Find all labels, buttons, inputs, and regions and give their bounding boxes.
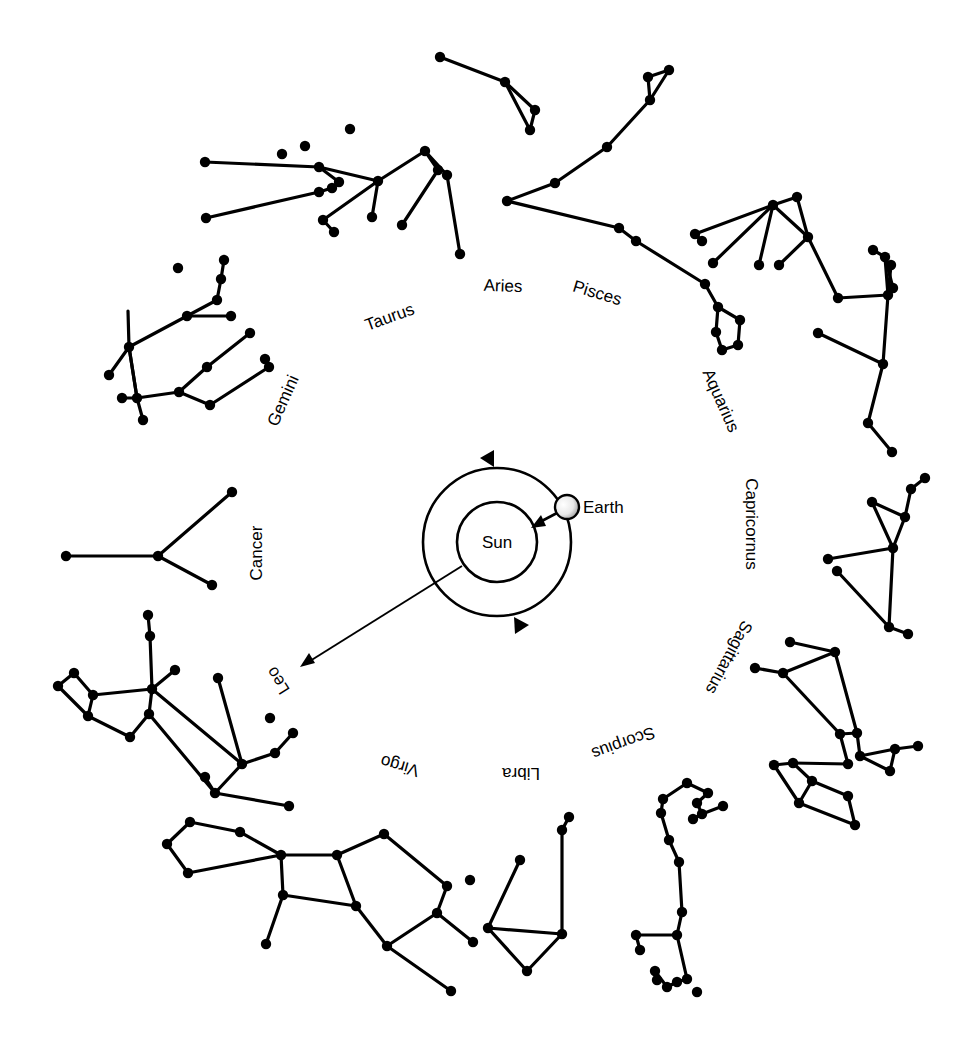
star-icon bbox=[276, 850, 286, 860]
star-icon bbox=[327, 183, 337, 193]
star-icon bbox=[750, 663, 760, 673]
star-icon bbox=[843, 759, 853, 769]
constellation-scorpius bbox=[631, 778, 728, 997]
label-virgo: Virgo bbox=[378, 751, 421, 780]
star-icon bbox=[465, 875, 475, 885]
star-icon bbox=[162, 839, 172, 849]
constellation-line bbox=[378, 151, 425, 181]
constellation-line bbox=[387, 913, 437, 946]
constellation-line bbox=[167, 844, 188, 873]
star-icon bbox=[132, 393, 142, 403]
star-icon bbox=[261, 939, 271, 949]
label-pisces: Pisces bbox=[571, 277, 624, 310]
constellation-line bbox=[283, 895, 356, 906]
constellation-line bbox=[356, 906, 387, 946]
star-icon bbox=[104, 370, 114, 380]
constellation-line bbox=[337, 855, 356, 906]
constellation-line bbox=[207, 333, 250, 367]
star-icon bbox=[143, 610, 153, 620]
star-icon bbox=[147, 684, 157, 694]
star-icon bbox=[708, 258, 718, 268]
star-icon bbox=[373, 176, 383, 186]
star-icon bbox=[351, 901, 361, 911]
star-icon bbox=[735, 315, 745, 325]
star-icon bbox=[264, 362, 274, 372]
constellation-line bbox=[838, 295, 888, 298]
star-icon bbox=[614, 223, 624, 233]
star-icon bbox=[170, 665, 180, 675]
constellation-line bbox=[759, 205, 773, 265]
constellation-line bbox=[58, 686, 88, 716]
star-icon bbox=[550, 178, 560, 188]
star-icon bbox=[185, 817, 195, 827]
star-icon bbox=[83, 711, 93, 721]
star-icon bbox=[455, 249, 465, 259]
star-icon bbox=[213, 673, 223, 683]
label-aquarius: Aquarius bbox=[699, 366, 744, 435]
star-icon bbox=[890, 744, 900, 754]
constellation-line bbox=[713, 205, 773, 263]
star-icon bbox=[717, 345, 727, 355]
constellation-line bbox=[828, 548, 893, 559]
label-capricornus: Capricornus bbox=[742, 478, 761, 570]
constellation-line bbox=[387, 946, 451, 991]
star-icon bbox=[867, 497, 877, 507]
constellation-line bbox=[507, 183, 555, 201]
star-icon bbox=[697, 809, 707, 819]
star-icon bbox=[645, 95, 655, 105]
star-icon bbox=[314, 187, 324, 197]
star-icon bbox=[278, 890, 288, 900]
constellation-line bbox=[883, 295, 888, 364]
star-icon bbox=[672, 930, 682, 940]
star-icon bbox=[202, 362, 212, 372]
zodiac-diagram: Sun Earth TaurusAriesPiscesAquariusCapri… bbox=[0, 0, 972, 1051]
star-icon bbox=[314, 162, 324, 172]
constellation-line bbox=[88, 716, 130, 737]
constellation-leo bbox=[53, 610, 298, 811]
star-icon bbox=[885, 766, 895, 776]
leo-arrowhead-icon bbox=[300, 653, 315, 667]
star-icon bbox=[174, 387, 184, 397]
constellation-line bbox=[240, 832, 281, 855]
constellation-line bbox=[129, 316, 187, 347]
constellation-line bbox=[488, 928, 527, 971]
constellation-line bbox=[783, 652, 835, 673]
constellation-line bbox=[128, 311, 129, 347]
star-icon bbox=[920, 473, 930, 483]
constellation-line bbox=[779, 237, 808, 265]
star-icon bbox=[515, 855, 525, 865]
sun-label: Sun bbox=[482, 533, 512, 552]
star-icon bbox=[557, 825, 567, 835]
star-icon bbox=[833, 293, 843, 303]
constellation-line bbox=[677, 935, 687, 979]
star-icon bbox=[270, 748, 280, 758]
star-icon bbox=[138, 415, 148, 425]
star-icon bbox=[807, 776, 817, 786]
star-icon bbox=[435, 52, 445, 62]
star-icon bbox=[868, 245, 878, 255]
constellation-line bbox=[837, 571, 889, 627]
star-icon bbox=[144, 709, 154, 719]
star-icon bbox=[210, 788, 220, 798]
star-icon bbox=[212, 295, 222, 305]
constellation-line bbox=[860, 749, 895, 756]
star-icon bbox=[788, 758, 798, 768]
star-icon bbox=[900, 512, 910, 522]
constellation-line bbox=[206, 192, 319, 218]
constellation-line bbox=[812, 781, 848, 796]
constellation-line bbox=[440, 57, 505, 82]
star-icon bbox=[227, 487, 237, 497]
constellation-line bbox=[179, 367, 207, 392]
star-icon bbox=[61, 551, 71, 561]
star-icon bbox=[682, 974, 692, 984]
star-icon bbox=[442, 881, 452, 891]
star-icon bbox=[832, 566, 842, 576]
label-libra: Libra bbox=[502, 764, 540, 783]
star-icon bbox=[662, 982, 672, 992]
constellation-line bbox=[158, 492, 232, 556]
constellation-virgo bbox=[162, 817, 478, 996]
star-icon bbox=[183, 868, 193, 878]
constellation-line bbox=[695, 205, 773, 234]
star-icon bbox=[288, 728, 298, 738]
constellation-line bbox=[507, 201, 619, 228]
